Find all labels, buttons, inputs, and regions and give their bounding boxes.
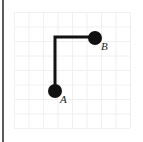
connector-path bbox=[55, 37, 95, 91]
point-label-b: B bbox=[101, 41, 108, 52]
point-marker-b bbox=[88, 31, 102, 45]
path-and-points-layer bbox=[0, 0, 143, 142]
point-label-a: A bbox=[60, 94, 67, 105]
figure-canvas: A B bbox=[0, 0, 143, 142]
